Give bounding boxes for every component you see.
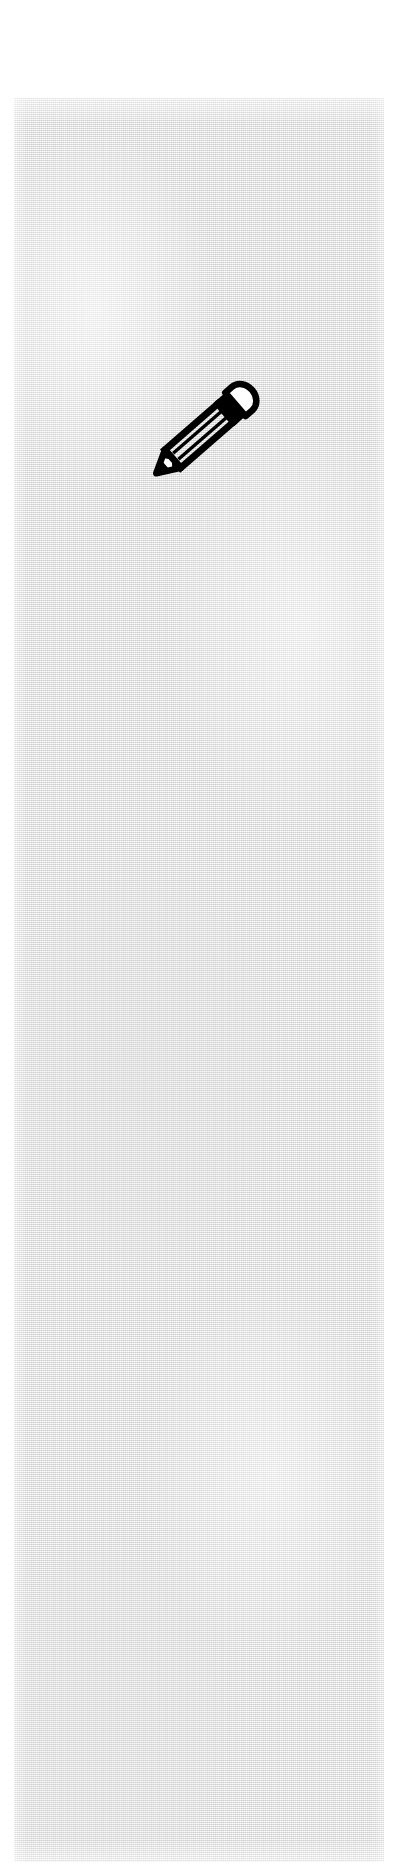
pencil-icon-graphic	[146, 380, 266, 480]
pencil-icon	[146, 380, 266, 480]
scanned-document-page	[0, 0, 418, 1875]
paper-grain-texture	[14, 98, 384, 1862]
paper-panel	[14, 98, 384, 1862]
paper-edge-shading	[14, 98, 384, 1862]
